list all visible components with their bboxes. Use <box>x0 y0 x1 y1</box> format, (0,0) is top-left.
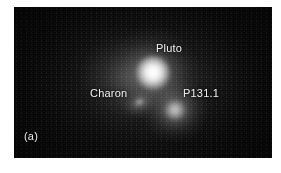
object-label-charon: Charon <box>90 88 127 99</box>
astronomical-image-field: Pluto Charon P131.1 (a) <box>14 7 272 158</box>
object-label-p131-1: P131.1 <box>183 88 219 99</box>
panel-letter: (a) <box>24 131 38 142</box>
object-label-pluto: Pluto <box>156 43 182 54</box>
p131-1-core <box>164 100 186 120</box>
figure-panel: Pluto Charon P131.1 (a) <box>0 0 281 173</box>
pluto-core <box>136 56 170 90</box>
